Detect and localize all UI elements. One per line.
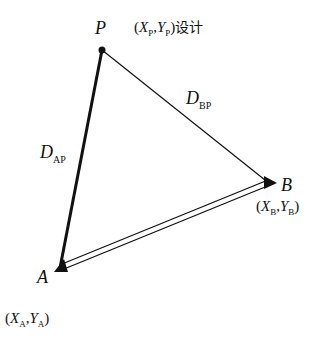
coord-x: X	[261, 198, 270, 214]
point-b-label: B	[281, 176, 292, 194]
coord-x: X	[139, 19, 148, 35]
point-b-coordinates: (XB,YB)	[256, 199, 299, 217]
point-p-label: P	[95, 19, 106, 37]
coord-x: X	[10, 310, 19, 326]
edge-ap-label: DAP	[40, 143, 66, 165]
paren-close: )	[44, 310, 49, 326]
edge-bp	[102, 50, 270, 184]
edge-bp-label: DBP	[186, 89, 211, 111]
triangle-diagram	[0, 0, 323, 340]
point-a-name: A	[37, 267, 48, 287]
distance-symbol: D	[40, 142, 53, 162]
point-a-coordinates: (XA,YA)	[5, 311, 49, 329]
point-b-marker	[264, 176, 277, 189]
distance-sub: AP	[53, 154, 66, 165]
point-p-name: P	[95, 18, 106, 38]
point-a-label: A	[37, 268, 48, 286]
point-p-marker	[99, 47, 106, 54]
point-b-name: B	[281, 175, 292, 195]
coord-y: Y	[29, 310, 37, 326]
paren-close: )	[294, 198, 299, 214]
design-suffix: 设计	[175, 19, 203, 35]
edge-ap	[60, 50, 102, 268]
edge-ab	[62, 180, 270, 269]
distance-symbol: D	[186, 88, 199, 108]
distance-sub: BP	[199, 100, 211, 111]
point-p-coordinates: (XP,YP)设计	[134, 20, 203, 38]
